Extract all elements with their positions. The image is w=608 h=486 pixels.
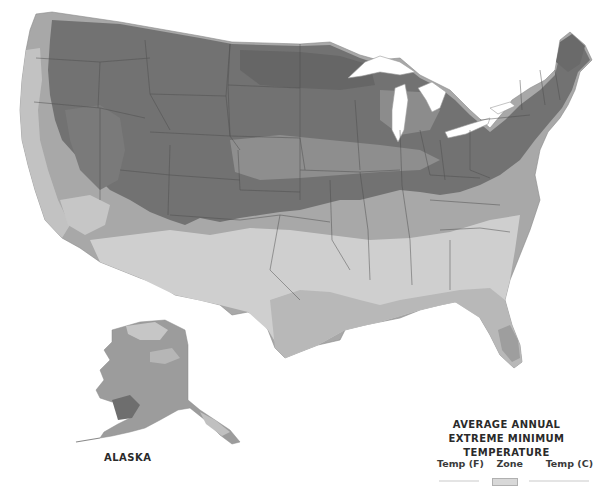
contiguous-us [20, 12, 592, 368]
alaska-southeast-light [200, 412, 230, 436]
legend-title-line1: AVERAGE ANNUAL [405, 418, 608, 432]
legend-col-temp-c: Temp (C) [546, 458, 593, 469]
alaska-inset [76, 320, 240, 444]
legend-column-headers: Temp (F) Zone Temp (C) [415, 458, 605, 469]
aleutian-islands [76, 438, 100, 442]
legend-row-temp-c-faint [529, 480, 589, 482]
legend-title-line2: EXTREME MINIMUM TEMPERATURE [405, 432, 608, 460]
alaska-label: ALASKA [104, 452, 152, 463]
legend: AVERAGE ANNUAL EXTREME MINIMUM TEMPERATU… [405, 418, 608, 460]
legend-zone-swatch [492, 478, 518, 486]
legend-col-zone: Zone [496, 458, 523, 469]
legend-col-temp-f: Temp (F) [437, 458, 484, 469]
legend-row-temp-f-faint [439, 480, 479, 482]
